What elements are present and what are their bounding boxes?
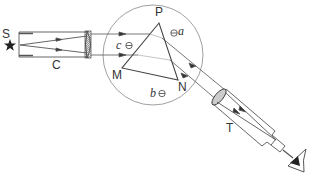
- screw-c: c: [116, 38, 132, 52]
- collimator-label: C: [52, 58, 61, 72]
- screw-b: b: [150, 86, 165, 100]
- screw-a: a: [171, 24, 184, 38]
- eye-icon: [288, 149, 306, 172]
- vertex-m-label: M: [112, 68, 122, 82]
- apex-label: P: [155, 5, 163, 19]
- emergent-rays: [162, 38, 225, 101]
- screw-b-label: b: [150, 86, 156, 100]
- spectrometer-diagram: S C P M N c a: [0, 0, 314, 174]
- vertex-n-label: N: [178, 80, 187, 94]
- triangle-prism: [122, 23, 178, 80]
- telescope-label: T: [226, 121, 234, 135]
- screw-a-label: a: [178, 24, 184, 38]
- collimator-tube: [19, 31, 91, 58]
- screw-c-label: c: [116, 38, 122, 52]
- telescope-tube: [210, 87, 293, 158]
- source-label: S: [2, 27, 10, 41]
